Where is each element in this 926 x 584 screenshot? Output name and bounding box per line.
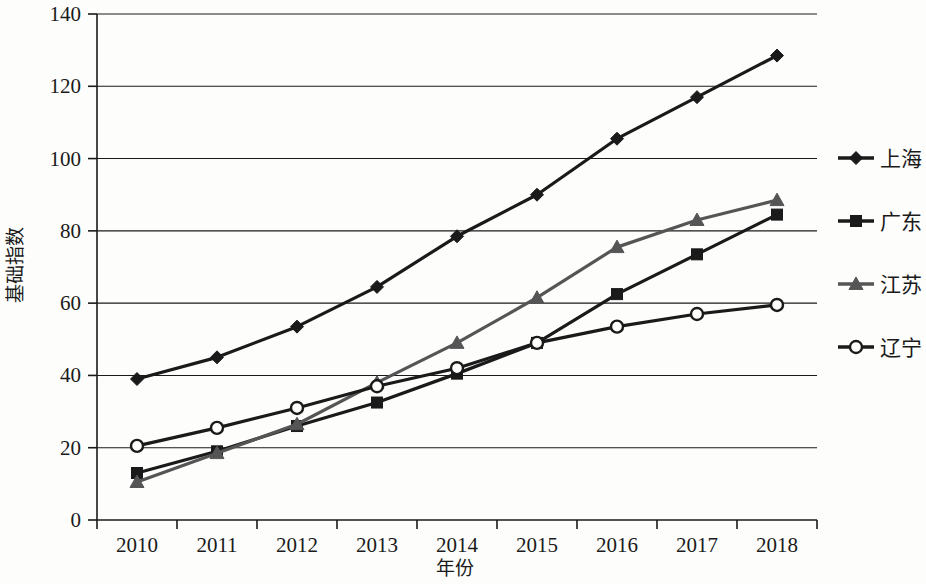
y-tick-label: 0	[71, 508, 82, 532]
y-tick-label: 100	[50, 147, 82, 171]
data-point-marker	[611, 321, 623, 333]
x-tick-label: 2014	[436, 533, 479, 557]
y-tick-label: 120	[50, 74, 82, 98]
legend-label: 江苏	[880, 273, 922, 296]
legend-label: 辽宁	[880, 336, 922, 359]
data-point-marker	[691, 91, 704, 104]
line-chart: 020406080100120140 201020112012201320142…	[0, 0, 926, 584]
data-point-marker	[691, 308, 703, 320]
x-tick-label: 2016	[596, 533, 638, 557]
x-axis-title: 年份	[436, 558, 474, 579]
y-tick-label: 80	[60, 219, 81, 243]
legend-item-江苏[interactable]: 江苏	[838, 273, 922, 296]
data-series-group	[130, 49, 784, 487]
legend-marker-icon	[850, 152, 863, 165]
y-axis-title: 基础指数	[5, 227, 26, 303]
legend-item-辽宁[interactable]: 辽宁	[838, 336, 922, 359]
chart-canvas: 020406080100120140 201020112012201320142…	[0, 0, 926, 584]
x-tick-label: 2010	[116, 533, 158, 557]
data-point-marker	[211, 351, 224, 364]
data-point-marker	[531, 337, 543, 349]
y-tick-label: 40	[60, 363, 81, 387]
legend-marker-icon	[850, 341, 862, 353]
legend-item-上海[interactable]: 上海	[838, 147, 922, 170]
legend-item-广东[interactable]: 广东	[838, 210, 922, 233]
data-point-marker	[291, 402, 303, 414]
data-point-marker	[530, 291, 544, 303]
data-point-marker	[450, 336, 464, 348]
x-tick-label: 2012	[276, 533, 318, 557]
data-point-marker	[371, 380, 383, 392]
data-point-marker	[131, 373, 144, 386]
legend-label: 上海	[880, 147, 922, 170]
data-point-marker	[772, 209, 783, 220]
x-tick-labels: 201020112012201320142015201620172018	[116, 533, 798, 557]
data-point-marker	[291, 320, 304, 333]
x-tick-label: 2013	[356, 533, 398, 557]
x-tick-marks	[97, 520, 817, 529]
series-line	[137, 56, 777, 379]
x-tick-label: 2017	[676, 533, 718, 557]
data-point-marker	[692, 249, 703, 260]
data-point-marker	[211, 422, 223, 434]
legend-marker-icon	[851, 216, 862, 227]
y-tick-labels: 020406080100120140	[50, 2, 82, 532]
y-tick-label: 60	[60, 291, 81, 315]
y-tick-label: 20	[60, 436, 81, 460]
data-point-marker	[771, 49, 784, 62]
x-tick-label: 2015	[516, 533, 558, 557]
data-point-marker	[612, 289, 623, 300]
data-point-marker	[131, 440, 143, 452]
x-tick-label: 2011	[196, 533, 237, 557]
legend-label: 广东	[880, 210, 922, 233]
data-point-marker	[451, 362, 463, 374]
chart-legend: 上海广东江苏辽宁	[838, 147, 922, 359]
x-tick-label: 2018	[756, 533, 798, 557]
data-point-marker	[770, 193, 784, 205]
data-point-marker	[771, 299, 783, 311]
y-tick-label: 140	[50, 2, 82, 26]
data-point-marker	[372, 397, 383, 408]
y-tick-marks	[88, 14, 97, 520]
